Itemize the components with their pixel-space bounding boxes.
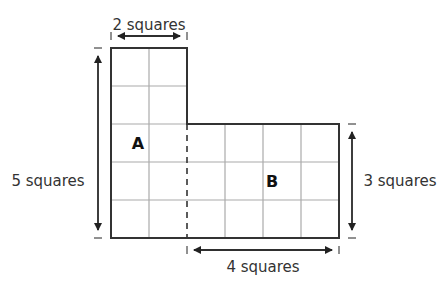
svg-text:2 squares: 2 squares — [112, 16, 185, 34]
left-dimension: 5 squares — [11, 48, 102, 238]
svg-text:5 squares: 5 squares — [11, 172, 84, 190]
l-shape-diagram: A B 2 squares 5 squares 3 squares 4 squa… — [0, 0, 441, 285]
svg-text:4 squares: 4 squares — [226, 258, 299, 276]
svg-text:3 squares: 3 squares — [363, 172, 436, 190]
bottom-dimension: 4 squares — [187, 246, 339, 276]
region-a-label: A — [132, 134, 145, 153]
region-b-label: B — [266, 172, 278, 191]
top-dimension: 2 squares — [111, 16, 187, 40]
right-dimension: 3 squares — [348, 124, 437, 238]
grid-lines — [111, 48, 339, 238]
